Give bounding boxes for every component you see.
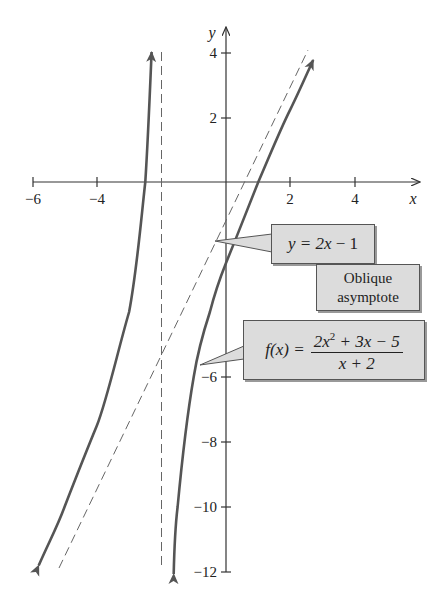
function-callout-pointer (200, 346, 244, 365)
x-tick-label: 4 (351, 191, 359, 207)
y-tick-label: −6 (201, 369, 217, 385)
num-part: + 3x − 5 (335, 331, 400, 350)
x-tick-label: −6 (25, 191, 41, 207)
eq-part: − 1 (331, 234, 358, 253)
y-tick-label: −8 (201, 434, 217, 450)
y-tick-label: −12 (194, 564, 217, 580)
function-equation-label: f(x) = 2x2 + 3x − 5 x + 2 (243, 320, 425, 380)
fraction: 2x2 + 3x − 5 x + 2 (311, 326, 403, 375)
caption-line: asymptote (317, 288, 419, 307)
function-lhs: f(x) = (265, 340, 304, 360)
oblique-callout-pointer (215, 234, 272, 252)
caption-line: Oblique (317, 269, 419, 288)
x-axis-label: x (408, 190, 416, 207)
eq-part: y = 2 (288, 234, 324, 253)
curve-left-branch (39, 52, 152, 566)
denominator: x + 2 (339, 353, 375, 374)
y-tick-label: −10 (194, 499, 217, 515)
x-tick-label: −4 (89, 191, 105, 207)
y-axis-label: y (206, 24, 216, 42)
num-part: 2x (314, 331, 330, 350)
curve-right-branch (174, 60, 314, 574)
y-tick-label: 2 (210, 110, 218, 126)
x-tick-label: 2 (286, 191, 294, 207)
y-tick-label: 4 (210, 45, 218, 61)
oblique-equation-label: y = 2x − 1 (271, 224, 375, 264)
oblique-asymptote (59, 50, 308, 568)
oblique-asymptote-caption: Oblique asymptote (316, 264, 420, 311)
numerator: 2x2 + 3x − 5 (311, 326, 403, 354)
